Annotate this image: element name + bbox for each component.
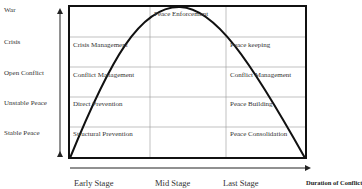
x-stage-early: Early Stage [74, 178, 113, 188]
y-level-war: War [4, 6, 15, 14]
cell-crisis-management: Crisis Management [73, 41, 128, 49]
x-axis-title: Duration of Conflict [306, 179, 362, 186]
y-level-stable-peace: Stable Peace [4, 129, 40, 137]
y-level-unstable-peace: Unstable Peace [4, 99, 47, 107]
cell-structural-prevention: Structural Prevention [73, 130, 133, 138]
x-stage-mid: Mid Stage [155, 178, 190, 188]
x-stage-last: Last Stage [223, 178, 259, 188]
cell-direct-prevention: Direct Prevention [73, 100, 123, 108]
cell-conflict-management-left: Conflict Management [73, 71, 134, 79]
cell-peace-building: Peace Building [230, 100, 273, 108]
cell-conflict-management-right: Conflict Management [230, 71, 291, 79]
cell-peace-keeping: Peace keeping [230, 41, 270, 49]
y-level-open-conflict: Open Conflict [4, 69, 44, 77]
cell-peace-enforcement: Peace Enforcement [154, 10, 208, 18]
cell-peace-consolidation: Peace Consolidation [230, 130, 287, 138]
y-level-crisis: Crisis [4, 38, 20, 46]
